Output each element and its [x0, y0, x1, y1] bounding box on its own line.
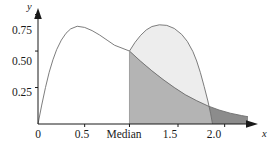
- x-tick-label-0: 0: [28, 129, 48, 141]
- y-axis-arrow: [34, 8, 42, 19]
- y-tick-label-025: 0.25: [0, 87, 32, 99]
- x-tick-label-05: 0.5: [64, 129, 100, 141]
- x-tick-label-20: 2.0: [196, 129, 232, 141]
- x-axis-label: x: [262, 129, 267, 140]
- chart-figure: 0.75 0.50 0.25 0 0.5 Median 1.5 2.0 y x: [0, 0, 276, 147]
- x-tick-label-median: Median: [96, 129, 152, 141]
- y-axis-label: y: [27, 2, 32, 13]
- y-tick-label-075: 0.75: [0, 25, 32, 37]
- y-tick-label-050: 0.50: [0, 56, 32, 68]
- x-axis-arrow: [246, 120, 258, 128]
- plot-area: [0, 0, 276, 147]
- x-tick-label-15: 1.5: [152, 129, 188, 141]
